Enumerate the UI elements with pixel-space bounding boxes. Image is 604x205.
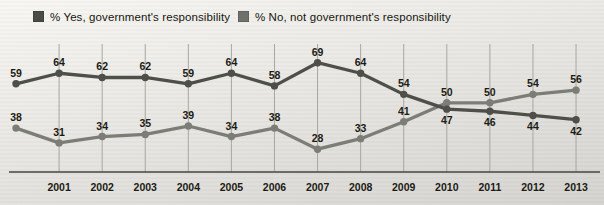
data-point-marker — [271, 82, 278, 89]
data-point-marker — [12, 124, 19, 131]
x-tick-label: 2003 — [134, 181, 158, 193]
data-value-label: 31 — [53, 126, 65, 138]
data-value-label: 64 — [355, 56, 367, 68]
data-point-marker — [357, 70, 364, 77]
data-value-label: 62 — [139, 60, 151, 72]
data-point-marker — [12, 80, 19, 87]
data-value-label: 50 — [484, 86, 496, 98]
data-point-marker — [142, 74, 149, 81]
data-value-label: 41 — [398, 105, 410, 117]
data-point-marker — [400, 118, 407, 125]
data-value-label: 35 — [139, 117, 151, 129]
data-point-marker — [572, 116, 579, 123]
data-value-label: 62 — [96, 60, 108, 72]
data-point-marker — [228, 133, 235, 140]
data-point-marker — [185, 80, 192, 87]
data-value-label: 59 — [182, 67, 194, 79]
data-point-marker — [357, 135, 364, 142]
data-point-marker — [271, 124, 278, 131]
data-point-marker — [142, 131, 149, 138]
x-tick-label: 2006 — [263, 181, 287, 193]
data-point-marker — [400, 91, 407, 98]
x-tick-label: 2001 — [47, 181, 71, 193]
data-point-marker — [55, 139, 62, 146]
data-point-marker — [529, 91, 536, 98]
data-value-label: 38 — [269, 111, 281, 123]
data-point-marker — [443, 105, 450, 112]
data-point-marker — [314, 146, 321, 153]
x-tick-label: 2004 — [177, 181, 201, 193]
data-value-label: 33 — [355, 122, 367, 134]
data-point-marker — [98, 133, 105, 140]
trend-line-chart: 2001200220032004200520062007200820092010… — [0, 0, 604, 205]
data-value-label: 46 — [484, 116, 496, 128]
x-tick-label: 2010 — [435, 181, 459, 193]
x-tick-label: 2012 — [521, 181, 545, 193]
data-point-marker — [185, 122, 192, 129]
data-point-marker — [443, 99, 450, 106]
x-tick-label: 2011 — [478, 181, 501, 193]
data-value-labels: 5964626259645869645447464442383134353934… — [10, 46, 582, 145]
data-value-label: 28 — [312, 132, 324, 144]
data-value-label: 42 — [570, 125, 582, 137]
data-value-label: 69 — [312, 46, 324, 58]
x-tick-label: 2013 — [564, 181, 588, 193]
data-value-label: 64 — [226, 56, 238, 68]
data-point-marker — [486, 99, 493, 106]
data-value-label: 58 — [269, 69, 281, 81]
data-value-label: 56 — [570, 73, 582, 85]
data-value-label: 59 — [10, 67, 22, 79]
x-tick-label: 2009 — [392, 181, 416, 193]
chart-figure: % Yes, government's responsibility % No,… — [0, 0, 604, 205]
x-tick-label: 2002 — [90, 181, 114, 193]
data-value-label: 38 — [10, 111, 22, 123]
data-value-label: 54 — [398, 77, 410, 89]
x-tick-label: 2008 — [349, 181, 373, 193]
data-point-marker — [529, 112, 536, 119]
data-point-marker — [572, 86, 579, 93]
data-value-label: 44 — [527, 120, 539, 132]
data-point-marker — [228, 70, 235, 77]
x-tick-label: 2007 — [306, 181, 330, 193]
data-value-label: 50 — [441, 86, 453, 98]
data-value-label: 64 — [53, 56, 65, 68]
data-value-label: 34 — [96, 120, 108, 132]
data-value-label: 34 — [226, 120, 238, 132]
data-point-marker — [55, 70, 62, 77]
data-point-marker — [486, 108, 493, 115]
x-tick-label: 2005 — [220, 181, 244, 193]
data-value-label: 39 — [182, 109, 194, 121]
data-point-marker — [98, 74, 105, 81]
data-value-label: 47 — [441, 114, 453, 126]
x-axis-tick-labels: 2001200220032004200520062007200820092010… — [47, 181, 587, 193]
data-point-marker — [314, 59, 321, 66]
data-value-label: 54 — [527, 77, 539, 89]
